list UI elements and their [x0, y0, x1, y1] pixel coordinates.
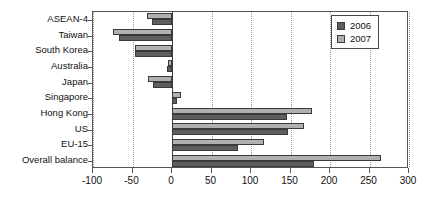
y-axis-labels: ASEAN-4TaiwanSouth KoreaAustraliaJapanSi…: [0, 11, 88, 168]
y-axis-tick: [88, 114, 93, 115]
x-axis-tick-label: -50: [124, 174, 138, 187]
x-axis-tick-label: 250: [360, 174, 377, 187]
x-axis-tick-label: 100: [242, 174, 259, 187]
y-axis-category-label: Singapore: [45, 91, 88, 102]
y-axis-category-label: Japan: [62, 76, 88, 87]
legend-item: 2006: [337, 19, 371, 32]
legend-item: 2007: [337, 32, 371, 45]
y-axis-category-label: EU-15: [61, 138, 88, 149]
bar-2006: [172, 114, 287, 120]
x-axis-tick-label: 50: [205, 174, 216, 187]
bar-2006: [119, 35, 172, 41]
bar-2006: [172, 98, 177, 104]
x-axis-tick-label: 300: [400, 174, 417, 187]
y-axis-category-label: Taiwan: [58, 29, 88, 40]
bar-2006: [153, 82, 172, 88]
x-axis-tick: [211, 168, 212, 173]
y-axis-tick: [88, 67, 93, 68]
bar-2006: [172, 145, 238, 151]
chart-legend: 20062007: [331, 15, 379, 49]
x-axis-tick-labels: -100-50050100150200250300: [92, 174, 408, 190]
x-axis-tick: [329, 168, 330, 173]
bar-2006: [172, 161, 314, 167]
legend-swatch-icon: [337, 22, 345, 30]
y-axis-tick: [88, 145, 93, 146]
x-axis-tick: [369, 168, 370, 173]
x-axis-tick-label: 150: [281, 174, 298, 187]
y-axis-category-label: Australia: [51, 60, 88, 71]
x-axis-tick-label: 0: [168, 174, 174, 187]
y-axis-tick: [88, 51, 93, 52]
x-axis-tick: [290, 168, 291, 173]
bar-2006: [167, 66, 172, 72]
y-axis-tick: [88, 83, 93, 84]
bar-2006: [152, 19, 172, 25]
bar-chart: ASEAN-4TaiwanSouth KoreaAustraliaJapanSi…: [0, 0, 431, 207]
y-axis-tick: [88, 98, 93, 99]
x-axis-tick: [408, 168, 409, 173]
y-axis-category-label: Overall balance: [22, 154, 88, 165]
legend-label: 2007: [350, 33, 371, 44]
y-axis-category-label: US: [75, 123, 88, 134]
legend-label: 2006: [350, 20, 371, 31]
x-axis-tick: [92, 168, 93, 173]
y-axis-tick: [88, 130, 93, 131]
y-axis-category-label: South Korea: [35, 44, 88, 55]
x-axis-tick: [250, 168, 251, 173]
y-axis-tick: [88, 161, 93, 162]
y-axis-category-label: ASEAN-4: [47, 13, 88, 24]
y-axis-category-label: Hong Kong: [40, 107, 88, 118]
x-axis-tick-label: -100: [82, 174, 102, 187]
bar-2006: [172, 129, 288, 135]
x-axis-tick-label: 200: [321, 174, 338, 187]
gridline: [409, 12, 411, 167]
legend-swatch-icon: [337, 35, 345, 43]
y-axis-tick: [88, 36, 93, 37]
bar-2006: [135, 51, 172, 57]
x-axis-tick: [171, 168, 172, 173]
x-axis-tick: [132, 168, 133, 173]
y-axis-tick: [88, 20, 93, 21]
